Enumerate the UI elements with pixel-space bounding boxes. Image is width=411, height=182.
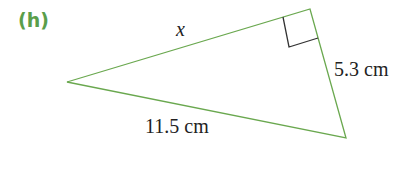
side-label-long-side: 11.5 cm	[145, 115, 209, 138]
side-label-x: x	[176, 18, 185, 41]
right-triangle-diagram	[0, 0, 411, 182]
side-label-short-leg: 5.3 cm	[334, 58, 388, 81]
right-angle-marker	[283, 17, 318, 47]
